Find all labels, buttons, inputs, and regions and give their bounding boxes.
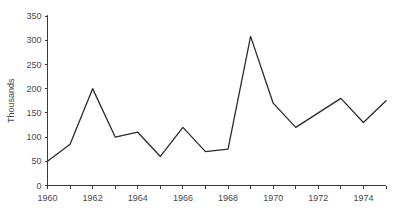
y-tick-label: 350 xyxy=(26,11,41,21)
y-tick-label: 0 xyxy=(36,181,41,191)
line-chart: 0501001502002503003501960196219641966196… xyxy=(0,0,397,219)
y-tick-label: 250 xyxy=(26,60,41,70)
y-axis-title: Thousands xyxy=(6,78,16,123)
data-series-line xyxy=(48,36,387,161)
y-tick-label: 50 xyxy=(31,156,41,166)
x-tick-label: 1966 xyxy=(173,193,193,203)
x-tick-label: 1974 xyxy=(353,193,373,203)
x-tick-label: 1972 xyxy=(308,193,328,203)
x-tick-label: 1964 xyxy=(128,193,148,203)
y-tick-label: 200 xyxy=(26,84,41,94)
x-tick-label: 1962 xyxy=(83,193,103,203)
x-tick-label: 1968 xyxy=(218,193,238,203)
chart-plot-area: 0501001502002503003501960196219641966196… xyxy=(0,0,397,219)
x-tick-label: 1970 xyxy=(263,193,283,203)
y-tick-label: 300 xyxy=(26,35,41,45)
y-tick-label: 100 xyxy=(26,132,41,142)
x-tick-label: 1960 xyxy=(37,193,57,203)
y-tick-label: 150 xyxy=(26,108,41,118)
